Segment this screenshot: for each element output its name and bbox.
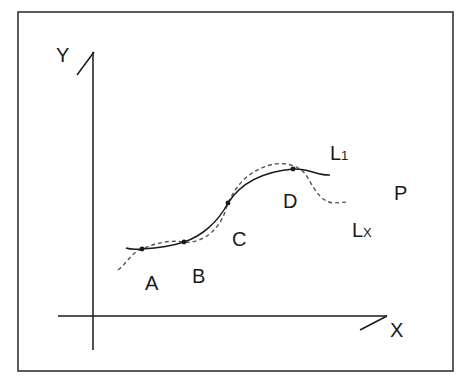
svg-text:1: 1 bbox=[341, 148, 348, 163]
svg-text:X: X bbox=[363, 225, 372, 240]
point-a bbox=[140, 247, 145, 252]
x-axis bbox=[58, 316, 387, 330]
curve-lx-label: L X bbox=[352, 219, 372, 241]
curve-l1 bbox=[126, 169, 330, 249]
x-axis-arrow-icon bbox=[360, 316, 387, 330]
x-axis-label: X bbox=[390, 319, 403, 341]
y-axis-arrow-icon bbox=[77, 52, 94, 75]
point-b bbox=[182, 240, 187, 245]
point-c-label: C bbox=[232, 228, 246, 250]
curve-l1-label: L 1 bbox=[330, 142, 348, 164]
svg-text:L: L bbox=[352, 219, 363, 241]
point-p-label: P bbox=[394, 182, 407, 204]
curve-lx bbox=[118, 164, 348, 270]
point-b-label: B bbox=[192, 265, 205, 287]
svg-text:L: L bbox=[330, 142, 341, 164]
y-axis bbox=[77, 52, 94, 350]
point-c bbox=[226, 201, 231, 206]
point-d-label: D bbox=[283, 190, 297, 212]
diagram-canvas: Y X A B C D L 1 L X P bbox=[0, 0, 472, 386]
y-axis-label: Y bbox=[56, 44, 69, 66]
point-a-label: A bbox=[145, 272, 159, 294]
point-d bbox=[291, 167, 296, 172]
